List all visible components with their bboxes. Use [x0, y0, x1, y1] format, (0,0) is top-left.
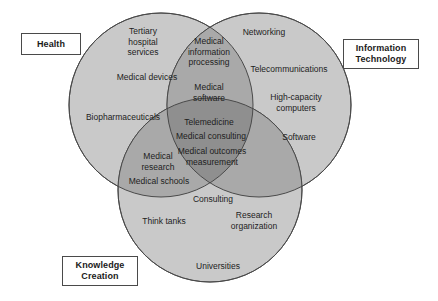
set-label-knowledge-creation: Knowledge Creation: [62, 256, 138, 286]
set-label-information-technology: Information Technology: [343, 39, 419, 69]
venn-diagram-page: Health Information Technology Knowledge …: [0, 0, 438, 301]
set-label-health: Health: [21, 33, 81, 55]
